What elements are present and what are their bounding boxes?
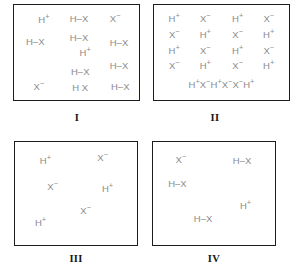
lattice-species-Hcation: H+ [232,15,243,25]
lattice-species-Hcation: H+ [200,61,211,71]
lattice-species-Hcation: H+ [189,80,200,90]
species-hcation: H+ [102,185,113,195]
species-hxx: H–X [26,37,44,47]
lattice-bottom-row: H+X−H+X−X−H+ [189,80,255,90]
lattice-species-Xanion: X− [169,31,180,41]
lattice-species-Xanion: X− [222,80,233,90]
species-hxx: H–X [194,215,212,225]
species-hxx: H–X [71,68,89,78]
species-hcation: H+ [240,201,251,211]
species-xx: X− [47,183,58,193]
lattice-species-Xanion: X− [200,46,211,56]
lattice-species-Hcation: H+ [200,31,211,41]
panel-ii-box: H+X−H+X−X−H+X−H+H+X−H+X−X−H+X−H+H+X−H+X−… [153,4,290,101]
panel-ii-contents: H+X−H+X−X−H+X−H+H+X−H+X−X−H+X−H+H+X−H+X−… [154,5,289,100]
lattice-species-Xanion: X− [200,80,211,90]
species-hcation: H+ [35,219,46,229]
species-h-x: H X [72,83,88,93]
panel-iii-caption: III [69,254,82,265]
panel-i-caption: I [75,113,79,124]
species-hxx: H–X [70,15,88,25]
species-hcation: H+ [38,15,49,25]
species-hcation: H+ [80,48,91,58]
lattice-species-Xanion: X− [169,61,180,71]
species-hxx: H–X [111,82,129,92]
species-hcation: H+ [40,156,51,166]
species-xx: X− [110,15,121,25]
species-xx: X− [80,206,91,216]
panel-iii-box: H+X−X−H+X−H+ [14,141,138,246]
species-hxx: H–X [168,179,186,189]
lattice-species-Xanion: X− [263,15,274,25]
lattice-species-Xanion: X− [232,61,243,71]
lattice-species-Hcation: H+ [232,46,243,56]
panel-i-contents: H+H–XX−H–XH–XH–XH+H–XH–XX−H XH–X [14,5,139,100]
lattice-species-Hcation: H+ [263,31,274,41]
lattice-species-Xanion: X− [263,46,274,56]
species-hxx: H–X [110,38,128,48]
lattice-species-Hcation: H+ [169,46,180,56]
species-hxx: H–X [233,156,251,166]
lattice-species-Hcation: H+ [169,15,180,25]
panel-iv-contents: X−H–XH–XH+H–X [153,142,275,245]
panel-ii-caption: II [211,113,220,124]
lattice-species-Hcation: H+ [263,61,274,71]
panel-iv-caption: IV [208,254,220,265]
lattice-species-Xanion: X− [232,31,243,41]
species-xx: X− [97,154,108,164]
species-xx: X− [34,82,45,92]
panel-i-box: H+H–XX−H–XH–XH–XH+H–XH–XX−H XH–X [13,4,140,101]
species-xx: X− [176,155,187,165]
lattice-species-Hcation: H+ [211,80,222,90]
lattice-species-Xanion: X− [200,15,211,25]
panel-iii-contents: H+X−X−H+X−H+ [15,142,137,245]
species-hxx: H–X [110,61,128,71]
species-hxx: H–X [70,34,88,44]
ionization-diagram-figure: H+H–XX−H–XH–XH–XH+H–XH–XX−H XH–X I H+X−H… [0,0,292,278]
lattice-species-Xanion: X− [233,80,244,90]
panel-iv-box: X−H–XH–XH+H–X [152,141,276,246]
lattice-species-Hcation: H+ [243,80,254,90]
